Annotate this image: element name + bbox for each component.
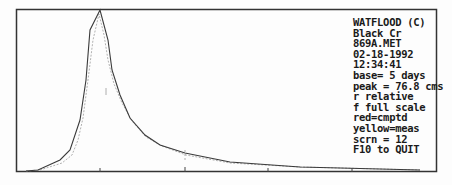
app-title: WATFLOOD (C) <box>353 17 443 28</box>
time-base-label: base= 5 days <box>353 70 443 81</box>
quit-hint[interactable]: F10 to QUIT <box>353 144 443 155</box>
hydrograph-screen: WATFLOOD (C) Black Cr 869A.MET 02-18-199… <box>0 0 452 185</box>
legend-measured: yellow=meas <box>353 123 443 134</box>
info-panel: WATFLOOD (C) Black Cr 869A.MET 02-18-199… <box>353 17 443 155</box>
